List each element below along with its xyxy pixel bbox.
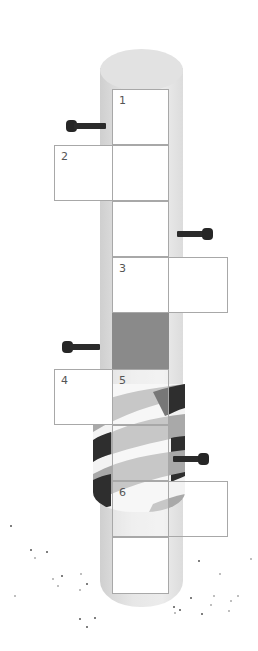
bolt-icon	[177, 228, 213, 240]
grid-cell[interactable]	[168, 481, 228, 537]
clue-number: 5	[119, 374, 126, 387]
clue-number: 6	[119, 486, 126, 499]
pole-top	[100, 49, 183, 91]
grid-cell-1[interactable]: 1	[112, 89, 169, 145]
grid-cell-4[interactable]: 4	[54, 369, 113, 425]
bolt-icon	[62, 341, 100, 353]
clue-number: 1	[119, 94, 126, 107]
bolt-icon	[173, 453, 209, 465]
clue-number: 4	[61, 374, 68, 387]
bolt-icon	[66, 120, 106, 132]
clue-number: 3	[119, 262, 126, 275]
grid-cell[interactable]	[168, 257, 228, 313]
clue-number: 2	[61, 150, 68, 163]
grid-cell[interactable]	[112, 201, 169, 257]
grid-cell[interactable]	[112, 425, 169, 481]
grid-cell-6[interactable]: 6	[112, 481, 169, 537]
blocked-cell	[112, 313, 169, 369]
grid-cell-3[interactable]: 3	[112, 257, 169, 313]
grid-cell-5[interactable]: 5	[112, 369, 169, 425]
grid-cell-2[interactable]: 2	[54, 145, 113, 201]
grid-cell[interactable]	[112, 537, 169, 594]
grid-cell[interactable]	[112, 145, 169, 201]
